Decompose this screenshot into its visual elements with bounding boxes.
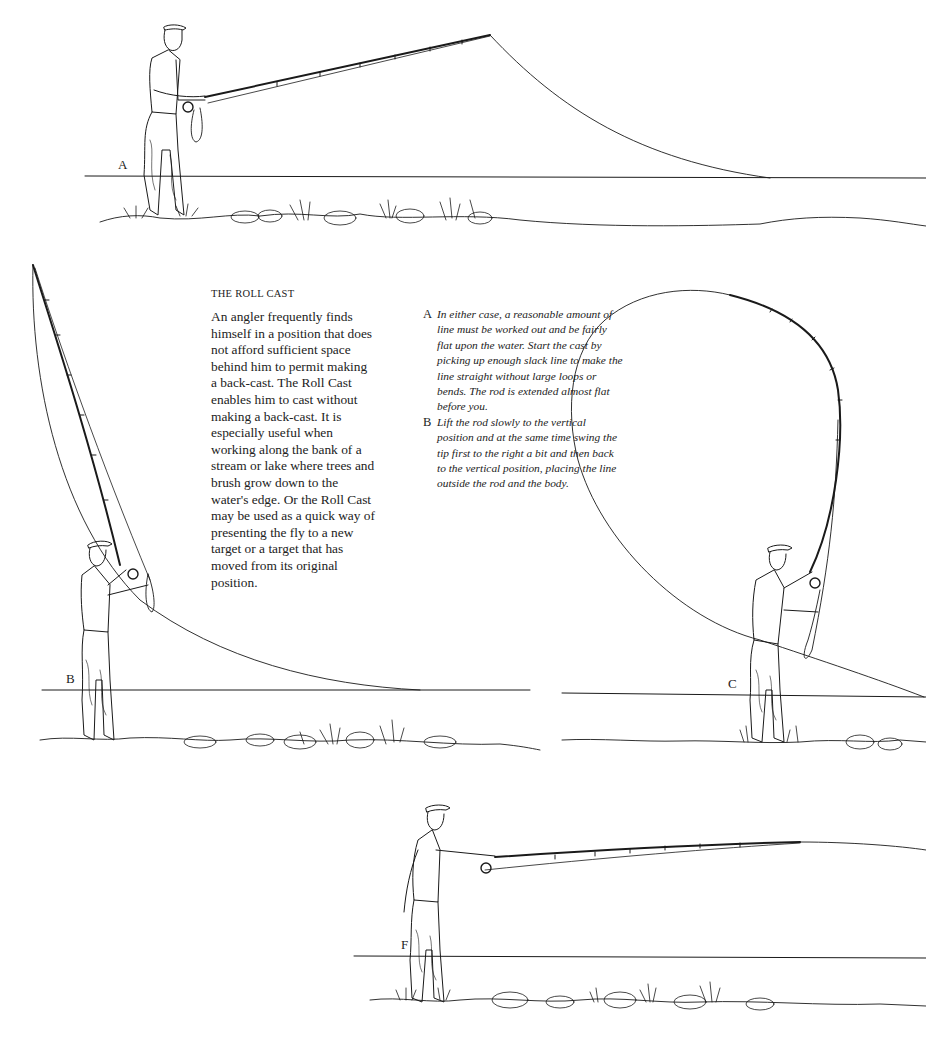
section-heading: THE ROLL CAST [211, 288, 294, 299]
step-list: A In either case, a reasonable amount of… [423, 307, 623, 492]
step-text: Lift the rod slowly to the vertical posi… [437, 416, 617, 490]
step-letter: B [423, 415, 431, 430]
figure-a-label: A [118, 157, 128, 172]
step-text: In either case, a reasonable amount of l… [437, 308, 623, 412]
figure-c-label: C [728, 676, 737, 691]
figure-f-illustration [354, 805, 926, 1010]
figure-b-label: B [66, 671, 75, 686]
step-letter: A [423, 307, 432, 322]
figure-f-label: F [401, 937, 408, 952]
step-item-a: A In either case, a reasonable amount of… [423, 307, 623, 415]
step-item-b: B Lift the rod slowly to the vertical po… [423, 415, 623, 492]
figure-a-illustration [85, 25, 926, 226]
body-paragraph: An angler frequently finds himself in a … [211, 309, 376, 591]
illustration-layer: A B [0, 0, 926, 1058]
